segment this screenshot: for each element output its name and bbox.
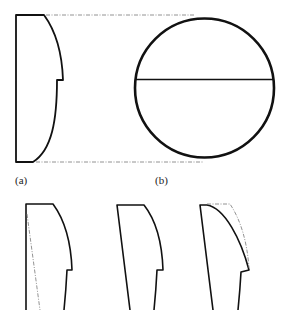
projection-lines [36, 15, 204, 162]
diagram-canvas [0, 0, 283, 310]
profile-variant-1 [26, 204, 72, 310]
label-a: (a) [15, 174, 27, 186]
profile-variant-3 [200, 204, 249, 310]
profile-a [16, 15, 63, 162]
profile-variant-2 [117, 205, 163, 310]
label-b: (b) [155, 174, 168, 186]
circle-b [135, 19, 274, 158]
